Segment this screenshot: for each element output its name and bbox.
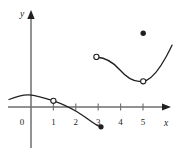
- x-axis-arrow-icon: [162, 103, 171, 110]
- y-axis-arrow-icon: [27, 10, 34, 19]
- tick-label-5: 5: [141, 117, 146, 127]
- tick-label-4: 4: [118, 117, 123, 127]
- x-axis-label: x: [163, 118, 169, 128]
- curve-right-branch: [97, 45, 172, 81]
- tick-label-1: 1: [51, 117, 56, 127]
- axes-group: [8, 10, 171, 148]
- tick-label-0: 0: [20, 117, 25, 127]
- open-circle-right-curve-start: [94, 54, 99, 59]
- open-circle-right-curve-min: [141, 79, 146, 84]
- tick-label-2: 2: [74, 117, 79, 127]
- graph-figure: 0 1 2 3 4 5 y x: [0, 0, 184, 156]
- y-axis-label: y: [19, 9, 25, 19]
- x-axis-tick-labels: 0 1 2 3 4 5: [20, 117, 146, 127]
- coordinate-plot-svg: 0 1 2 3 4 5 y x: [0, 0, 184, 156]
- open-circle-left-curve: [51, 98, 56, 103]
- isolated-filled-point: [141, 31, 146, 36]
- curves-group: [9, 45, 172, 126]
- closed-circle-left-curve-end: [98, 124, 103, 129]
